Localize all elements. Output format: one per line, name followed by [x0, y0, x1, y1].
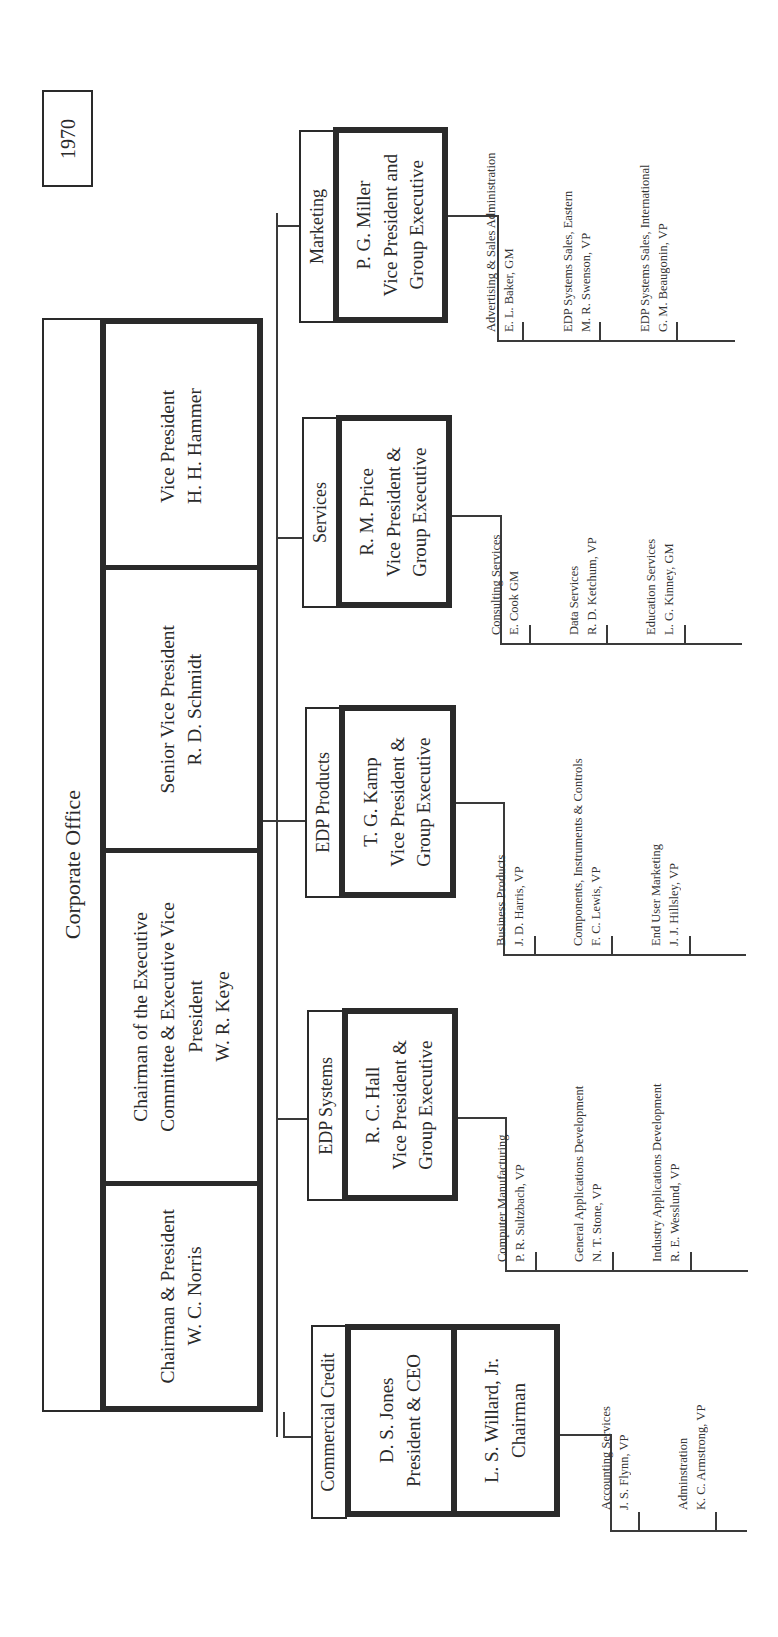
unit-head: R. E. Wesslund, VP: [666, 1000, 684, 1262]
unit-item: EDP Systems Sales, EasternM. R. Swenson,…: [559, 70, 599, 332]
exec-title: Vice President: [154, 388, 181, 504]
unit-name: General Applications Development: [570, 1000, 588, 1262]
exec-cell-norris: Chairman & President W. C. Norris: [106, 1186, 257, 1406]
group-head-edp-systems: R. C. Hall Vice President & Group Execut…: [342, 1008, 458, 1201]
group-head-services: R. M. Price Vice President & Group Execu…: [336, 415, 452, 608]
unit-head: E. L. Baker, GM: [500, 70, 518, 332]
head-title: Vice President &: [381, 447, 408, 577]
unit-tick: [638, 1512, 640, 1531]
unit-tick: [676, 322, 678, 341]
head-title: Group Executive: [404, 154, 431, 296]
head-title: President & CEO: [401, 1354, 428, 1487]
unit-head: J. S. Flynn, VP: [615, 1330, 633, 1510]
head-title: Group Executive: [411, 737, 438, 867]
head-title: Chairman: [506, 1358, 533, 1483]
connector-trunk: [276, 213, 278, 1437]
head-name: P. G. Miller: [351, 154, 378, 296]
unit-tick: [684, 625, 686, 644]
exec-cell-keye: Chairman of the Executive Committee & Ex…: [106, 853, 257, 1181]
head-title: Group Executive: [413, 1040, 440, 1170]
group-label-edp-systems: EDP Systems: [307, 1010, 346, 1201]
unit-item: Business ProductsJ. D. Harris, VP: [492, 700, 532, 946]
unit-head: G. M. Beaugonin, VP: [654, 70, 672, 332]
group-label-marketing: Marketing: [299, 130, 337, 323]
unit-item: Computer ManufacturingP. R. Sultzbach, V…: [493, 1000, 533, 1262]
unit-item: Components, Instruments & ControlsF. C. …: [569, 620, 609, 946]
unit-name: Adminstration: [674, 1330, 692, 1510]
group-head-willard: L. S. Willard, Jr. Chairman: [451, 1324, 560, 1517]
unit-head: K. C. Armstrong, VP: [692, 1330, 710, 1510]
exec-name: W. R. Keye: [209, 902, 236, 1132]
connector-corporate: [263, 820, 305, 822]
connector-services: [276, 537, 302, 539]
unit-name: EDP Systems Sales, International: [636, 70, 654, 332]
exec-title: Chairman & President: [154, 1209, 181, 1383]
year-label: 1970: [54, 119, 82, 159]
unit-tick: [529, 625, 531, 644]
unit-tick: [689, 936, 691, 955]
unit-item: Advertising & Sales AdministrationE. L. …: [482, 70, 522, 332]
unit-tick: [599, 322, 601, 341]
unit-name: End User Marketing: [647, 700, 665, 946]
group-label-services: Services: [302, 417, 340, 608]
unit-item: Industry Applications DevelopmentR. E. W…: [648, 1000, 688, 1262]
unit-name: Data Services: [565, 420, 583, 635]
exec-title-line: Chairman of the Executive: [127, 902, 154, 1132]
unit-baseline: [500, 643, 742, 645]
unit-name: Business Products: [492, 700, 510, 946]
unit-name: EDP Systems Sales, Eastern: [559, 70, 577, 332]
unit-baseline: [503, 954, 746, 956]
connector-trunk-lower: [283, 1412, 285, 1437]
year-box: 1970: [42, 90, 93, 187]
unit-tick: [522, 322, 524, 341]
exec-name: R. D. Schmidt: [182, 625, 209, 794]
unit-head: N. T. Stone, VP: [588, 1000, 606, 1262]
unit-head: R. D. Ketchum, VP: [583, 420, 601, 635]
unit-name: Industry Applications Development: [648, 1000, 666, 1262]
unit-name: Consulting Services: [487, 420, 505, 635]
group-head-edp-products: T. G. Kamp Vice President & Group Execut…: [339, 705, 456, 898]
head-title: Vice President and: [377, 154, 404, 296]
group-label-edp-products: EDP Products: [305, 707, 343, 898]
unit-baseline: [610, 1530, 747, 1532]
exec-cell-schmidt: Senior Vice President R. D. Schmidt: [106, 570, 257, 848]
unit-tick: [611, 936, 613, 955]
exec-title-line: Committee & Executive Vice: [154, 902, 181, 1132]
exec-title: Senior Vice President: [154, 625, 181, 794]
exec-cell-hammer: Vice President H. H. Hammer: [106, 324, 257, 567]
unit-item: Accounting ServicesJ. S. Flynn, VP: [597, 1330, 637, 1510]
head-name: L. S. Willard, Jr.: [479, 1358, 506, 1483]
unit-tick: [715, 1512, 717, 1531]
unit-item: End User MarketingJ. J. Hillsley, VP: [647, 700, 687, 946]
unit-tick: [535, 1252, 537, 1271]
group-head-marketing: P. G. Miller Vice President and Group Ex…: [333, 127, 448, 323]
unit-item: EDP Systems Sales, InternationalG. M. Be…: [636, 70, 676, 332]
unit-item: Education ServicesL. G. Kinney, GM: [642, 420, 682, 635]
unit-head: F. C. Lewis, VP: [587, 620, 605, 946]
unit-item: General Applications DevelopmentN. T. St…: [570, 1000, 610, 1262]
unit-name: Education Services: [642, 420, 660, 635]
unit-name: Advertising & Sales Administration: [482, 70, 500, 332]
unit-name: Components, Instruments & Controls: [569, 620, 587, 946]
unit-baseline: [505, 1270, 748, 1272]
unit-tick: [612, 1252, 614, 1271]
corporate-office-title: Corporate Office: [58, 790, 89, 939]
head-title: Group Executive: [407, 447, 434, 577]
unit-head: J. D. Harris, VP: [510, 700, 528, 946]
unit-head: P. R. Sultzbach, VP: [511, 1000, 529, 1262]
connector-commercial-credit: [283, 1436, 311, 1438]
head-title: Vice President &: [387, 1040, 414, 1170]
group-label-commercial-credit: Commercial Credit: [311, 1325, 347, 1519]
exec-title-line: President: [182, 902, 209, 1132]
unit-baseline: [497, 340, 735, 342]
unit-tick: [534, 936, 536, 955]
unit-item: AdminstrationK. C. Armstrong, VP: [674, 1330, 714, 1510]
head-title: Vice President &: [384, 737, 411, 867]
exec-name: W. C. Norris: [182, 1209, 209, 1383]
connector-edp-systems: [276, 1118, 307, 1120]
head-name: T. G. Kamp: [358, 737, 385, 867]
unit-head: L. G. Kinney, GM: [660, 420, 678, 635]
unit-head: J. J. Hillsley, VP: [665, 700, 683, 946]
exec-name: H. H. Hammer: [182, 388, 209, 504]
head-name: R. C. Hall: [360, 1040, 387, 1170]
